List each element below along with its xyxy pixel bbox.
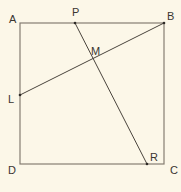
geometry-diagram: A P B M L R D C [0, 0, 181, 192]
point-l [19, 94, 22, 97]
label-c: C [170, 164, 178, 176]
label-p: P [72, 6, 79, 18]
label-b: B [167, 10, 174, 22]
point-p [74, 22, 77, 25]
label-a: A [9, 13, 17, 25]
label-d: D [8, 164, 16, 176]
segment-pr [75, 23, 147, 164]
point-r [146, 163, 149, 166]
segment-bl [20, 23, 164, 95]
label-l: L [8, 93, 14, 105]
label-m: M [91, 45, 100, 57]
label-r: R [150, 151, 158, 163]
point-b [163, 22, 166, 25]
